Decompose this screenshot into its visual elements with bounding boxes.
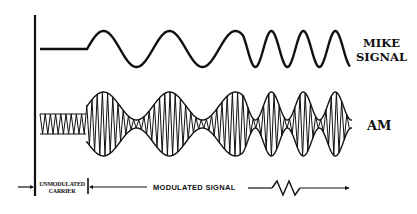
am-diagram: MIKE SIGNAL AM UNMODULATED CARRIER MODUL…	[0, 0, 417, 214]
mike-signal-waveform	[40, 31, 350, 67]
am-carrier-waveform	[40, 92, 349, 156]
left-arrowhead-icon	[30, 185, 34, 189]
zigzag-icon	[272, 181, 300, 195]
modulated-signal-label: MODULATED SIGNAL	[153, 183, 236, 192]
unmodulated-carrier-label: UNMODULATED CARRIER	[36, 181, 88, 195]
am-envelope-top	[86, 92, 352, 120]
mike-label-line1: MIKE	[356, 36, 407, 50]
unmod-line2: CARRIER	[36, 188, 88, 195]
right-arrowhead-icon	[345, 186, 350, 190]
unmod-line1: UNMODULATED	[36, 181, 88, 188]
am-label: AM	[367, 118, 391, 133]
mike-label-line2: SIGNAL	[356, 50, 407, 64]
mike-signal-label: MIKE SIGNAL	[356, 36, 407, 64]
